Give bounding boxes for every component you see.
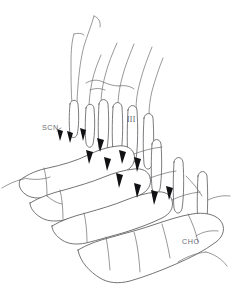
fiber-strand-1b	[74, 33, 84, 35]
branch-line-1	[86, 80, 119, 86]
projection-2	[85, 104, 94, 147]
fiber-strand-3	[89, 55, 101, 108]
fiber-strand-2b	[94, 16, 100, 27]
fiber-strand-5	[118, 44, 134, 107]
fold-line-16	[208, 196, 230, 200]
lobe-group	[19, 146, 223, 283]
fiber-strand-group	[71, 16, 163, 114]
label-scn: SCN	[42, 123, 59, 132]
branch-line-3	[119, 86, 134, 89]
projection-8	[173, 158, 183, 214]
label-roman-three: III	[127, 115, 136, 124]
projection-1	[69, 100, 78, 137]
fiber-branch-junction	[86, 80, 134, 90]
anatomical-line-diagram: SCN III CHO	[0, 0, 239, 299]
fold-line-18	[206, 252, 227, 266]
fiber-strand-6	[136, 47, 152, 110]
label-cho: CHO	[182, 237, 200, 246]
fiber-strand-7	[149, 58, 163, 114]
figure-container: SCN III CHO	[0, 0, 239, 299]
fiber-strand-4	[101, 43, 117, 105]
fiber-strand-1	[71, 34, 74, 104]
fiber-strand-2	[77, 16, 94, 110]
